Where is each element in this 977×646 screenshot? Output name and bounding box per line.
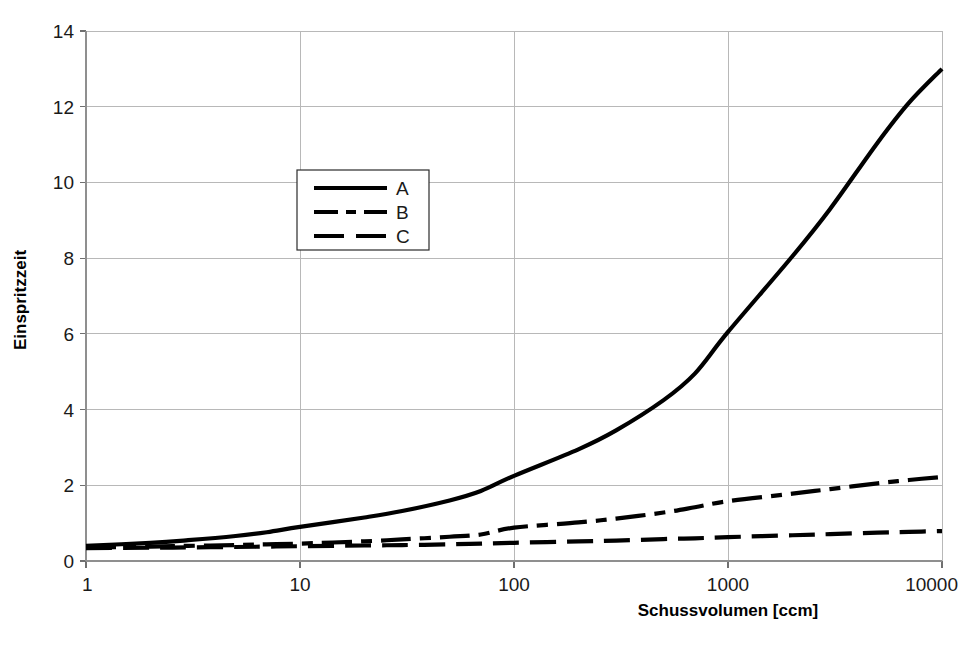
x-tick-label: 100 (498, 574, 530, 595)
x-tick-label: 1 (82, 574, 93, 595)
y-tick-label: 4 (63, 400, 74, 421)
x-tick-label: 1000 (707, 574, 749, 595)
x-tick-label: 10 (289, 574, 310, 595)
y-tick-label: 8 (63, 248, 74, 269)
x-tick-label: 10000 (905, 574, 958, 595)
y-tick-label: 0 (63, 551, 74, 572)
x-axis-title: Schussvolumen [ccm] (638, 601, 818, 620)
line-chart: 02468101214 110100100010000 ABC Einsprit… (0, 0, 977, 646)
chart-container: 02468101214 110100100010000 ABC Einsprit… (0, 0, 977, 646)
y-axis-title: Einspritzzeit (11, 250, 30, 350)
y-tick-label: 12 (53, 97, 74, 118)
y-tick-label: 14 (53, 21, 75, 42)
legend-label-b[interactable]: B (396, 202, 409, 223)
legend-label-a[interactable]: A (396, 178, 409, 199)
y-tick-label: 6 (63, 324, 74, 345)
legend-label-c[interactable]: C (396, 226, 410, 247)
y-tick-label: 2 (63, 475, 74, 496)
chart-legend[interactable]: ABC (297, 170, 429, 250)
y-tick-label: 10 (53, 172, 74, 193)
